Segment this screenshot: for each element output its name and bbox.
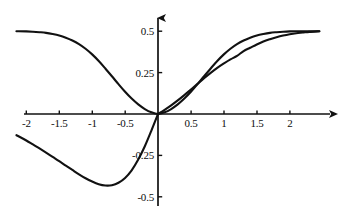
x-tick-label-2: 2 (287, 118, 292, 129)
x-tick-label-1.5: 1.5 (250, 118, 263, 129)
x-tick-label--1.5: -1.5 (51, 118, 68, 129)
plot-canvas (0, 0, 344, 218)
x-tick-label--1: -1 (88, 118, 97, 129)
curve-decaying-bell-branch (16, 31, 319, 114)
y-tick-label--0.25: -0.25 (116, 150, 154, 161)
curve-group (16, 31, 319, 185)
x-tick-label-0.5: 0.5 (185, 118, 198, 129)
x-tick-label--0.5: -0.5 (117, 118, 134, 129)
y-tick-label-0.5: 0.5 (128, 26, 154, 37)
axis-group (24, 18, 330, 206)
x-tick-label--2: -2 (22, 118, 31, 129)
x-tick-label-1: 1 (221, 118, 226, 129)
chart-figure: -2 -1.5 -1 -0.5 0.5 1 1.5 2 0.5 0.25 -0.… (0, 0, 344, 218)
y-tick-label--0.5: -0.5 (124, 191, 154, 202)
y-tick-label-0.25: 0.25 (120, 67, 154, 78)
